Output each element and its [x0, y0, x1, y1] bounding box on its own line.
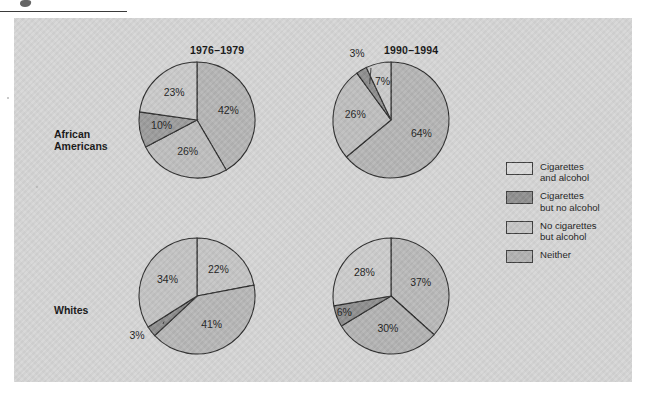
pie-chart-whites-1990-1994: 37%30%6%28% [326, 231, 456, 361]
pie-slice-percent-label: 30% [377, 322, 398, 334]
pie-slice-percent-label: 3% [129, 329, 144, 341]
pie-slice-percent-label: 64% [411, 127, 432, 139]
legend-swatch-no-cigarettes-but-alcohol [506, 221, 533, 234]
pie-chart-whites-1976-1979: 22%41%3%34% [132, 231, 262, 361]
legend-swatch-cigarettes-and-alcohol [506, 162, 533, 175]
row-label-whites: Whites [54, 304, 88, 316]
pie-slice-percent-label: 37% [410, 276, 431, 288]
pie-chart-african-americans-1976-1979: 42%26%10%23% [132, 55, 262, 185]
legend-item: Neither [506, 249, 636, 263]
legend-item: Cigarettes but no alcohol [506, 190, 636, 212]
legend: Cigarettes and alcohol Cigarettes but no… [506, 161, 636, 270]
pie-slice-percent-label: 10% [151, 119, 172, 131]
cropped-caption-glyph [20, 0, 32, 7]
pie-slice-percent-label: 6% [337, 306, 352, 318]
paper-speck [36, 186, 38, 188]
caption-divider-rule [0, 11, 127, 12]
row-label-african-americans: African Americans [54, 128, 108, 152]
pie-slice-percent-label: 26% [345, 108, 366, 120]
pie-slice-percent-label: 23% [164, 86, 185, 98]
figure-root: 1976–1979 1990–1994 African Americans Wh… [0, 0, 647, 398]
paper-speck [7, 97, 9, 99]
legend-item: Cigarettes and alcohol [506, 161, 636, 183]
pie-slice-percent-label: 3% [349, 47, 364, 59]
legend-label-no-cigarettes-but-alcohol: No cigarettes but alcohol [540, 220, 597, 242]
legend-item: No cigarettes but alcohol [506, 220, 636, 242]
legend-label-cigarettes-and-alcohol: Cigarettes and alcohol [540, 161, 589, 183]
pie-slice-percent-label: 41% [201, 318, 222, 330]
legend-swatch-cigarettes-but-no-alcohol [506, 191, 533, 204]
pie-chart-african-americans-1990-1994: 64%26%3%7% [326, 55, 456, 185]
pie-slice-percent-label: 7% [375, 75, 390, 87]
pie-slice-percent-label: 28% [354, 266, 375, 278]
chart-panel: 1976–1979 1990–1994 African Americans Wh… [14, 18, 632, 382]
pie-slice-percent-label: 22% [208, 263, 229, 275]
legend-label-cigarettes-but-no-alcohol: Cigarettes but no alcohol [540, 190, 600, 212]
pie-slice-percent-label: 26% [177, 145, 198, 157]
legend-swatch-neither [506, 250, 533, 263]
legend-label-neither: Neither [540, 249, 571, 260]
pie-slice-percent-label: 42% [218, 104, 239, 116]
pie-slice-percent-label: 34% [157, 273, 178, 285]
